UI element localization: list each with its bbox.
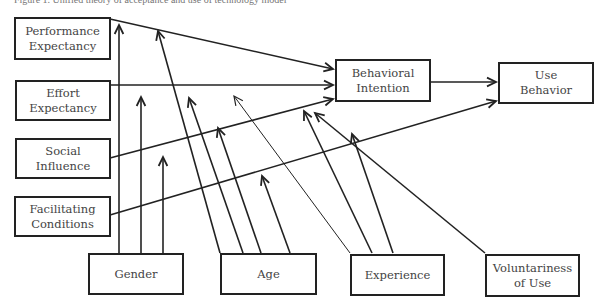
moderator-arrow xyxy=(159,157,168,253)
node-voluntariness-of-use: Voluntariness of Use xyxy=(485,254,580,297)
path-arrow xyxy=(431,78,496,87)
node-facilitating-conditions: Facilitating Conditions xyxy=(14,196,111,237)
moderator-arrow xyxy=(315,113,485,253)
node-gender: Gender xyxy=(88,253,184,295)
moderator-arrow xyxy=(156,31,220,253)
path-arrow xyxy=(110,81,333,90)
node-label: Effort Expectancy xyxy=(29,86,96,116)
node-label: Use Behavior xyxy=(520,68,572,98)
node-age: Age xyxy=(220,253,317,295)
node-label: Voluntariness of Use xyxy=(493,261,572,291)
path-arrow xyxy=(110,99,496,215)
node-label: Experience xyxy=(365,268,431,283)
moderator-arrow xyxy=(115,25,124,253)
node-use-behavior: Use Behavior xyxy=(498,62,594,104)
node-label: Social Influence xyxy=(36,144,91,174)
node-social-influence: Social Influence xyxy=(15,138,111,179)
path-arrow xyxy=(110,19,333,71)
moderator-arrow xyxy=(351,134,393,253)
node-label: Age xyxy=(257,267,279,282)
node-performance-expectancy: Performance Expectancy xyxy=(14,17,111,60)
moderator-arrow xyxy=(217,128,261,253)
node-effort-expectancy: Effort Expectancy xyxy=(15,80,111,121)
moderator-arrow xyxy=(137,97,146,253)
node-behavioral-intention: Behavioral Intention xyxy=(335,59,431,102)
path-arrow xyxy=(110,97,333,158)
node-experience: Experience xyxy=(350,254,445,296)
node-label: Performance Expectancy xyxy=(25,24,100,54)
node-label: Gender xyxy=(114,267,157,282)
moderator-arrow xyxy=(261,176,290,253)
node-label: Facilitating Conditions xyxy=(29,202,95,232)
moderator-arrow xyxy=(234,96,350,253)
node-label: Behavioral Intention xyxy=(352,66,415,96)
